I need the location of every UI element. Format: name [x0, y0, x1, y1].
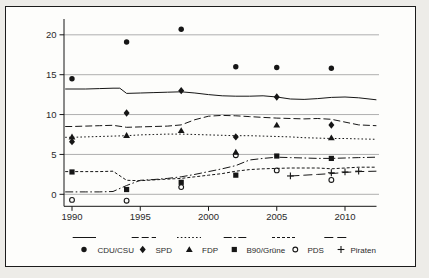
- marker-b90-gr-ne: [233, 173, 238, 178]
- x-tick-label: 1990: [61, 211, 82, 222]
- marker-cdu-csu: [179, 27, 184, 32]
- legend-marker-cdu-csu: [81, 247, 86, 252]
- series-line-b90-gr-ne: [65, 157, 376, 192]
- y-tick-label: 5: [51, 149, 56, 160]
- legend-marker-fdp: [186, 246, 193, 252]
- marker-pds: [124, 198, 129, 203]
- legend-label-b90-gr-ne: B90/Grüne: [247, 246, 286, 255]
- marker-fdp: [273, 122, 280, 128]
- marker-b90-gr-ne: [274, 153, 279, 158]
- marker-spd: [328, 121, 334, 128]
- legend-label-spd: SPD: [156, 246, 173, 255]
- marker-pds: [329, 178, 334, 183]
- series-line-cdu-csu: [65, 88, 376, 100]
- x-tick-label: 2005: [266, 211, 287, 222]
- marker-fdp: [178, 127, 185, 133]
- party-trend-line-chart: 0510152019901995200020052010CDU/CSUSPDFD…: [1, 1, 429, 278]
- y-tick-label: 20: [46, 29, 57, 40]
- legend-marker-pds: [293, 247, 298, 252]
- marker-pds: [70, 197, 75, 202]
- legend-label-pds: PDS: [308, 246, 324, 255]
- marker-b90-gr-ne: [69, 169, 74, 174]
- legend-label-cdu-csu: CDU/CSU: [98, 246, 135, 255]
- marker-cdu-csu: [124, 39, 129, 44]
- x-tick-label: 2000: [198, 211, 219, 222]
- series-line-piraten: [290, 171, 376, 176]
- marker-pds: [179, 185, 184, 190]
- marker-b90-gr-ne: [124, 187, 129, 192]
- marker-cdu-csu: [69, 76, 74, 81]
- marker-spd: [274, 93, 280, 100]
- x-tick-label: 2010: [334, 211, 355, 222]
- legend-label-fdp: FDP: [202, 246, 218, 255]
- marker-spd: [233, 133, 239, 140]
- y-tick-label: 10: [46, 109, 57, 120]
- marker-cdu-csu: [329, 66, 334, 71]
- marker-b90-gr-ne: [179, 180, 184, 185]
- marker-spd: [124, 109, 130, 116]
- marker-fdp: [123, 132, 130, 138]
- legend-marker-b90-gr-ne: [232, 247, 237, 252]
- legend-label-piraten: Piraten: [351, 246, 376, 255]
- legend-marker-spd: [140, 246, 146, 253]
- x-tick-label: 1995: [130, 211, 151, 222]
- chart-figure: 0510152019901995200020052010CDU/CSUSPDFD…: [5, 6, 416, 267]
- marker-spd: [178, 87, 184, 94]
- marker-b90-gr-ne: [329, 156, 334, 161]
- marker-fdp: [328, 134, 335, 140]
- marker-cdu-csu: [233, 64, 238, 69]
- marker-fdp: [69, 134, 76, 140]
- y-tick-label: 15: [46, 69, 57, 80]
- marker-pds: [274, 168, 279, 173]
- y-tick-label: 0: [51, 189, 56, 200]
- marker-cdu-csu: [274, 65, 279, 70]
